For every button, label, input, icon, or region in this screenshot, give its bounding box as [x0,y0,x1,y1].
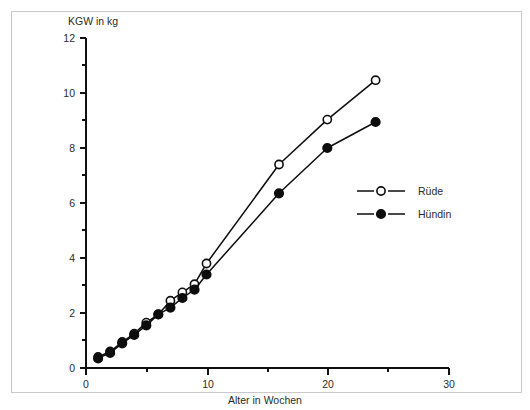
data-point-huendin-w24 [371,118,380,127]
series-ruede [94,76,380,361]
data-point-huendin-w1 [94,354,103,363]
series-huendin-line [98,122,376,358]
data-point-huendin-w2 [106,349,115,358]
data-point-huendin-w8 [178,294,187,303]
series-ruede-line [98,80,376,357]
series-ruede-markers [94,76,380,361]
data-point-huendin-w20 [323,144,332,153]
data-point-huendin-w4 [130,331,139,340]
y-tick-label-6: 6 [69,197,75,209]
x-axis-title: Alter in Wochen [228,394,302,406]
axes-group [86,38,449,368]
y-tick-label-10: 10 [63,87,75,99]
x-tick-label-30: 30 [443,378,455,390]
data-point-huendin-w3 [118,339,127,348]
y-axis-tick-labels: 12 10 8 6 4 2 0 [63,32,75,374]
y-axis-ticks [80,38,86,368]
legend-label-huendin: Hündin [418,208,451,220]
chart-figure: 12 10 8 6 4 2 0 0 10 20 30 KGW in kg Alt [0,0,530,410]
y-tick-label-4: 4 [69,252,75,264]
x-axis-tick-labels: 0 10 20 30 [83,378,455,390]
data-point-huendin-w10 [202,270,211,279]
data-point-huendin-w6 [154,310,163,319]
data-point-ruede-w10 [202,259,210,267]
data-point-ruede-w16 [275,160,283,168]
data-point-huendin-w16 [275,189,284,198]
x-tick-label-20: 20 [322,378,334,390]
data-point-huendin-w9 [190,285,199,294]
x-axis-ticks [86,368,449,375]
y-tick-label-2: 2 [69,307,75,319]
legend-label-ruede: Rüde [418,185,443,197]
y-tick-label-12: 12 [63,32,75,44]
y-axis-title: KGW in kg [68,15,118,27]
y-tick-label-8: 8 [69,142,75,154]
data-point-ruede-w20 [323,116,331,124]
legend-item-ruede[interactable]: Rüde [357,185,443,197]
growth-curve-chart: 12 10 8 6 4 2 0 0 10 20 30 KGW in kg Alt [0,0,530,410]
y-tick-label-0: 0 [69,362,75,374]
legend-open-circle-icon [377,187,385,195]
data-point-ruede-w24 [372,76,380,84]
legend-filled-circle-icon [377,210,386,219]
data-point-huendin-w7 [166,303,175,312]
x-tick-label-0: 0 [83,378,89,390]
data-point-huendin-w5 [142,321,151,330]
x-tick-label-10: 10 [202,378,214,390]
legend-item-huendin[interactable]: Hündin [357,208,451,220]
chart-legend: Rüde Hündin [357,185,451,220]
series-huendin [94,118,380,363]
